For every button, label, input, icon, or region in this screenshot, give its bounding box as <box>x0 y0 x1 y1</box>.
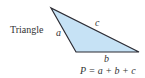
side-label-b: b <box>104 54 109 64</box>
perimeter-formula: P = a + b + c <box>80 66 136 76</box>
side-label-c: c <box>95 18 99 28</box>
side-label-a: a <box>56 28 61 38</box>
triangle-shape <box>51 8 139 52</box>
